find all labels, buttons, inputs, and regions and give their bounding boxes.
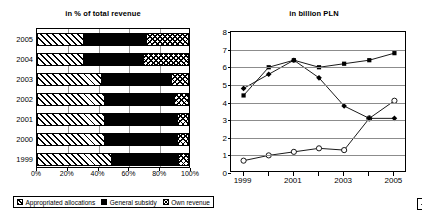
bar-row [37,153,189,166]
legend-label: Appropriated allocations [26,199,96,206]
bar-segment [104,113,177,126]
gridline [231,155,405,156]
bar-segment [143,53,189,66]
data-point-open-circle [342,147,347,152]
bar-segment [177,133,189,146]
bar-segment [174,93,189,106]
x-axis-label: 1999 [234,176,252,185]
data-point-filled-square [342,62,346,66]
legend-item-appropriated-allocations: Appropriated allocations [17,199,95,206]
y-axis-label: 6 [223,63,227,72]
x-axis-tick [368,172,369,176]
x-axis-label: 100% [181,170,199,177]
y-axis-label: 1 [223,151,227,160]
y-axis-label: 2 [223,133,227,142]
y-axis-tick [228,138,231,139]
series-line [244,101,395,161]
gridline [231,103,405,104]
bar-segment [37,33,83,46]
solid-swatch-icon [101,199,107,205]
category-label: 1999 [16,153,33,166]
data-point-filled-square [367,58,371,62]
y-axis-label: 0 [223,169,227,178]
y-axis-label: 7 [223,45,227,54]
bar-row [37,53,189,66]
crosshatch-swatch-icon [163,199,169,205]
bar-row [37,73,189,86]
category-label: 2003 [16,73,33,86]
bar-segment [146,33,189,46]
x-axis-label: 0% [31,170,41,177]
bar-segment [37,153,111,166]
gridline [231,67,405,68]
y-axis-label: 3 [223,116,227,125]
bar-row [37,133,189,146]
stacked-bar-plot-area: 2005200420032002200120001999 [36,28,190,168]
bar-segment [177,113,189,126]
y-axis-tick [228,32,231,33]
category-label: 2004 [16,53,33,66]
legend-item-general-subsidy: General subsidy [101,199,156,206]
stacked-bar-panel: in % of total revenue 200520042003200220… [0,0,206,218]
dual-chart-figure: in % of total revenue 200520042003200220… [0,0,422,218]
y-axis-label: 4 [223,98,227,107]
data-point-open-circle [241,158,246,163]
bar-segment [111,153,178,166]
category-label: 2001 [16,113,33,126]
bar-segment [37,53,83,66]
y-axis-tick [228,67,231,68]
category-label: 2002 [16,93,33,106]
line-chart-plot-area: 012345678 [230,31,406,172]
bar-segment [37,73,101,86]
x-axis-label: 40% [91,170,105,177]
y-axis-label: 8 [223,28,227,37]
data-point-filled-diamond [241,86,247,92]
data-point-filled-square [241,93,245,97]
y-axis-tick [228,50,231,51]
gridline [231,120,405,121]
x-axis-tick [268,172,269,176]
x-axis-label: 60% [121,170,135,177]
category-label: 2005 [16,33,33,46]
y-axis-tick [228,103,231,104]
x-axis-label: 2005 [385,176,403,185]
line-chart-panel: in billion PLN 012345678 Own revenue Gen… [206,0,422,218]
bar-segment [178,153,189,166]
data-point-open-circle [291,149,296,154]
y-axis-tick [228,155,231,156]
bar-segment [37,133,104,146]
y-axis-tick [228,173,231,174]
legend-label: General subsidy [110,199,157,206]
x-axis-label: 80% [152,170,166,177]
data-point-filled-diamond [266,72,272,78]
x-axis-label: 2003 [334,176,352,185]
legend-label: Own revenue [171,199,210,206]
left-chart-title: in % of total revenue [0,9,206,18]
bar-segment [83,33,147,46]
right-chart-legend: Own revenue General subsidies Appropriat… [417,198,422,210]
legend-item-own-revenue: Own revenue [163,199,210,206]
gridline [231,50,405,51]
right-chart-title: in billion PLN [206,9,422,18]
bar-segment [83,53,144,66]
y-axis-tick [228,120,231,121]
bar-segment [171,73,189,86]
data-point-open-circle [316,146,321,151]
bar-row [37,33,189,46]
data-point-filled-square [392,51,396,55]
x-axis-label: 20% [60,170,74,177]
left-chart-legend: Appropriated allocations General subsidy… [13,196,214,208]
bar-segment [101,73,171,86]
x-axis-tick [318,172,319,176]
y-axis-label: 5 [223,80,227,89]
category-label: 2000 [16,133,33,146]
bar-row [37,113,189,126]
bar-segment [104,133,177,146]
bar-segment [37,93,104,106]
y-axis-tick [228,85,231,86]
x-axis-label: 2001 [284,176,302,185]
gridline [231,138,405,139]
bar-segment [104,93,174,106]
bar-row [37,93,189,106]
gridline [231,85,405,86]
